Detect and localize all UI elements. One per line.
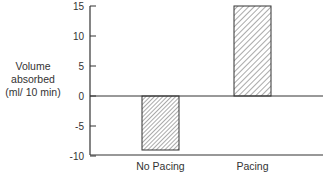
x-category-label: Pacing bbox=[236, 160, 268, 172]
y-tick-label: 5 bbox=[78, 61, 84, 72]
y-tick-label: 10 bbox=[73, 31, 85, 42]
bar-chart: 151050-5-10 No PacingPacing bbox=[0, 0, 326, 177]
x-category-label: No Pacing bbox=[136, 160, 185, 172]
y-tick-label: -10 bbox=[70, 151, 85, 162]
y-tick-label: -5 bbox=[75, 121, 84, 132]
y-tick-labels: 151050-5-10 bbox=[70, 1, 85, 162]
category-labels: No PacingPacing bbox=[136, 160, 268, 172]
bar-pacing bbox=[234, 6, 271, 96]
y-tick-label: 15 bbox=[73, 1, 85, 12]
bar-no-pacing bbox=[142, 96, 179, 150]
y-ticks bbox=[90, 6, 96, 156]
y-tick-label: 0 bbox=[78, 91, 84, 102]
bars bbox=[142, 6, 271, 150]
